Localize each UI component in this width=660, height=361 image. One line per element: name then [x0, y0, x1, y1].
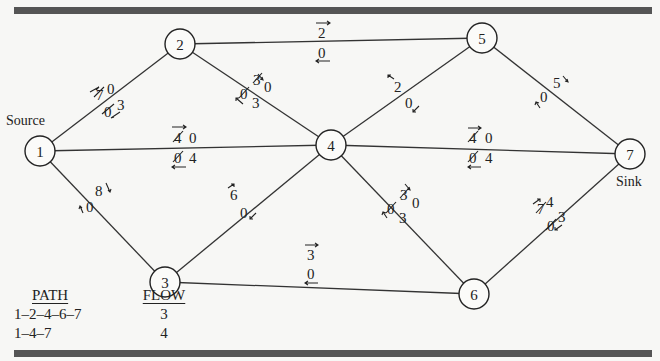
edge-1-4-labels: 4 0 0 4	[172, 125, 197, 169]
struck-value: 4	[174, 130, 182, 146]
arrow-down-left-icon	[413, 106, 419, 112]
struck-value: 0	[174, 150, 182, 166]
node-6-label: 6	[470, 287, 478, 303]
node-2: 2	[165, 29, 195, 59]
edge-4-7-labels: 4 0 0 4	[468, 126, 493, 169]
edge-1-2-labels: 7 0 0 3	[90, 81, 125, 120]
struck-value: 4	[469, 130, 477, 146]
flow-header: FLOW	[143, 287, 186, 303]
edge-5-7	[482, 38, 630, 154]
arrow-down-left-icon	[250, 213, 256, 219]
edge-4-7	[331, 145, 630, 154]
edge-4-6-labels: 3 0 0 3	[382, 184, 420, 226]
node-4: 4	[316, 130, 346, 160]
flow-cell: 3	[134, 305, 194, 324]
node-1-label: 1	[36, 144, 44, 160]
edges	[40, 38, 630, 294]
residual-value: 3	[558, 209, 566, 225]
struck-value: 0	[469, 150, 477, 166]
node-1: 1	[25, 136, 55, 166]
residual-value: 3	[117, 97, 125, 113]
residual-value: 0	[240, 205, 248, 221]
node-5-label: 5	[478, 31, 486, 47]
residual-value: 2	[318, 25, 326, 41]
node-2-label: 2	[176, 37, 184, 53]
residual-value: 5	[553, 75, 561, 91]
residual-value: 4	[485, 150, 493, 166]
residual-value: 0	[86, 199, 94, 215]
node-7: 7	[615, 139, 645, 169]
struck-value: 3	[400, 187, 408, 203]
path-flow-table: PATH FLOW 1–2–4–6–7 3 1–4–7 4	[14, 286, 194, 343]
struck-value: 7	[537, 201, 545, 217]
residual-value: 0	[485, 130, 493, 146]
residual-value: 0	[540, 89, 548, 105]
table-row: 1–2–4–6–7 3	[14, 305, 194, 324]
path-header: PATH	[32, 287, 68, 303]
arrow-down-left-icon	[111, 112, 120, 118]
residual-value: 0	[307, 266, 315, 282]
residual-value: 0	[107, 81, 115, 97]
edge-1-3-labels: 8 0	[79, 183, 111, 215]
node-6: 6	[459, 279, 489, 309]
edge-3-6	[165, 282, 474, 294]
edge-6-7-labels: 7 4 0 3	[533, 194, 566, 234]
edge-1-4	[40, 145, 331, 151]
residual-value: 2	[394, 79, 402, 95]
path-cell: 1–2–4–6–7	[14, 305, 134, 324]
edge-2-5	[180, 38, 482, 44]
path-cell: 1–4–7	[14, 324, 134, 343]
residual-value: 4	[546, 194, 554, 210]
struck-value: 0	[387, 201, 395, 217]
arrow-down-left-icon	[555, 225, 562, 230]
sink-caption: Sink	[616, 174, 642, 189]
edge-2-5-labels: 2 0	[316, 21, 330, 63]
edge-3-6-labels: 3 0	[305, 243, 318, 285]
source-caption: Source	[6, 113, 45, 128]
struck-value: 0	[547, 218, 555, 234]
struck-value: 3	[253, 72, 261, 88]
edge-2-4-labels: 3 0 0 3	[236, 72, 272, 111]
residual-value: 4	[189, 150, 197, 166]
struck-value: 0	[240, 86, 248, 102]
edge-1-2	[40, 44, 180, 151]
node-4-label: 4	[327, 138, 335, 154]
residual-value: 3	[307, 247, 315, 263]
residual-value: 0	[405, 95, 413, 111]
table-header: PATH FLOW	[14, 286, 194, 305]
edge-1-3	[40, 151, 165, 282]
node-7-label: 7	[626, 147, 634, 163]
arrow-right-icon	[172, 125, 186, 129]
edge-5-7-labels: 5 0	[535, 75, 568, 108]
edge-4-5	[331, 38, 482, 145]
residual-value: 0	[189, 130, 197, 146]
residual-value: 0	[264, 79, 272, 95]
arrow-down-right-icon	[563, 76, 568, 82]
residual-value: 3	[399, 210, 407, 226]
flow-cell: 4	[134, 324, 194, 343]
residual-value: 8	[95, 183, 103, 199]
residual-value: 0	[412, 195, 420, 211]
node-5: 5	[467, 23, 497, 53]
arrow-down-right-icon	[106, 183, 111, 192]
edge-3-4-labels: 6 0	[228, 184, 256, 221]
residual-value: 0	[318, 45, 326, 61]
residual-value: 6	[230, 187, 238, 203]
residual-value: 3	[252, 95, 260, 111]
arrow-up-left-icon	[79, 206, 83, 213]
table-row: 1–4–7 4	[14, 324, 194, 343]
